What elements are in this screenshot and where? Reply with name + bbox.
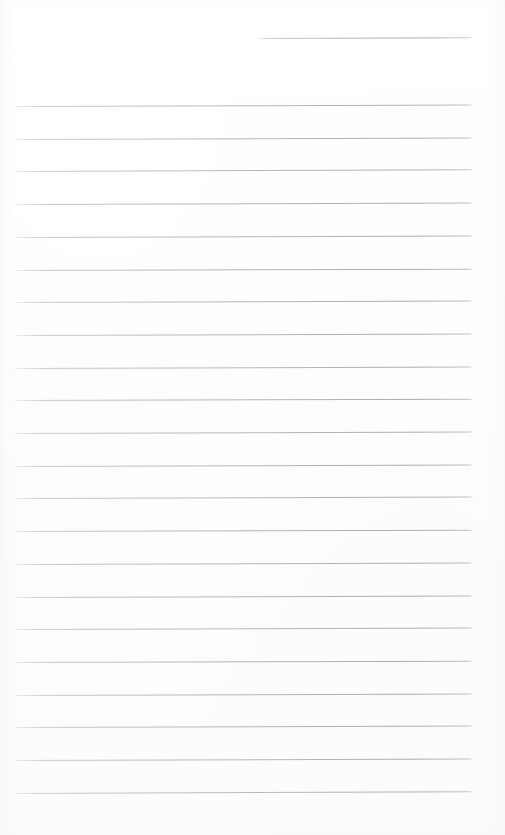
scanned-page bbox=[0, 0, 505, 835]
ruled-line bbox=[15, 595, 473, 597]
ruled-line bbox=[15, 530, 473, 532]
ruled-line bbox=[15, 104, 473, 107]
ruled-line bbox=[15, 366, 473, 369]
ruled-line bbox=[15, 203, 473, 205]
short-rule-top-right bbox=[258, 37, 472, 39]
ruled-line bbox=[15, 137, 473, 140]
ruled-line bbox=[15, 170, 473, 173]
ruled-line bbox=[15, 268, 473, 270]
ruled-line bbox=[15, 333, 473, 335]
paper-texture bbox=[0, 0, 505, 835]
ruled-line bbox=[15, 693, 473, 696]
ruled-line bbox=[15, 497, 473, 500]
ruled-line bbox=[15, 726, 473, 728]
ruled-line bbox=[15, 235, 473, 238]
ruled-line bbox=[15, 791, 473, 794]
ruled-line bbox=[15, 562, 473, 565]
ruled-line bbox=[15, 464, 473, 466]
ruled-line bbox=[15, 758, 473, 761]
ruled-line bbox=[15, 301, 473, 304]
ruled-line bbox=[15, 661, 473, 663]
scan-vignette bbox=[0, 0, 505, 835]
ruled-line bbox=[15, 628, 473, 631]
ruled-line bbox=[15, 399, 473, 401]
ruled-line bbox=[15, 431, 473, 434]
